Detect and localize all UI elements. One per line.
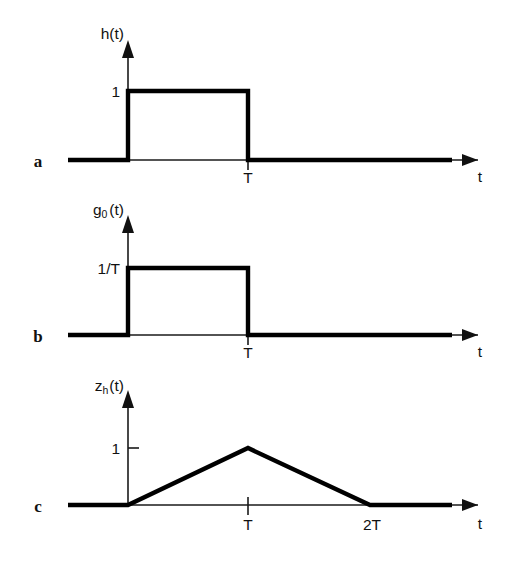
panel-letter-b: b [33,327,42,346]
x-axis-arrow-c [462,499,478,511]
panel-c-plot: 1 T 2T t c [0,370,509,565]
panel-b: 1/T T t b g0(t) [0,190,509,370]
x-axis-label-a: t [478,168,483,185]
panel-letter-c: c [34,497,42,516]
y-axis-arrow-a [122,40,134,58]
x-tick-label-T-b: T [243,344,253,361]
y-tick-label-c: 1 [111,440,120,457]
y-tick-label-a: 1 [111,83,120,100]
y-axis-arrow-b [122,215,134,233]
panel-a-plot: h (t) 1 T t a [0,0,509,190]
x-axis-arrow-a [462,154,478,166]
signal-trace-b [68,268,452,335]
panel-c: 1 T 2T t c zh(t) [0,370,509,565]
x-axis-label-c: t [478,515,483,532]
signal-diagram-figure: h (t) 1 T t a h(t) 1/T T t b [0,0,509,565]
y-tick-label-b: 1/T [98,260,121,277]
signal-trace-a [68,91,452,160]
y-axis-arrow-c [122,390,134,408]
x-tick-label-2T-c: 2T [363,516,382,533]
x-axis-label-b: t [478,343,483,360]
x-axis-arrow-b [462,329,478,341]
panel-a: h (t) 1 T t a h(t) [0,0,509,190]
signal-trace-c [68,448,452,505]
x-tick-label-T-a: T [243,169,253,186]
panel-b-plot: 1/T T t b [0,190,509,370]
x-tick-label-T-c: T [243,516,253,533]
panel-letter-a: a [34,152,43,171]
